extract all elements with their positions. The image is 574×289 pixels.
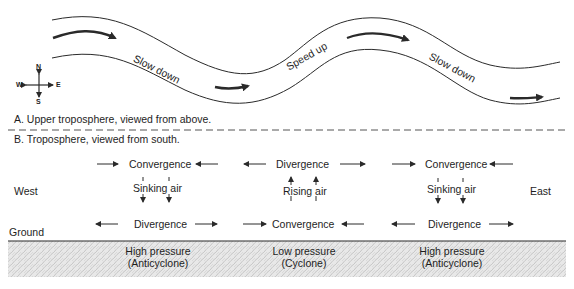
c3-pressure: High pressure (Anticyclone): [414, 245, 490, 269]
ground-label: Ground: [9, 226, 44, 238]
compass-west: W: [16, 81, 23, 88]
flow-arrow-2: [215, 86, 248, 89]
flow-arrow-3: [347, 33, 408, 40]
panel-b-caption: B. Troposphere, viewed from south.: [14, 133, 180, 145]
c3-top-label: Convergence: [425, 158, 487, 170]
c2-pressure: Low pressure (Cyclone): [266, 245, 342, 269]
wave-upper-boundary: [52, 17, 560, 74]
c2-pressure-line1: Low pressure: [266, 245, 342, 257]
c1-pressure: High pressure (Anticyclone): [120, 245, 196, 269]
flow-arrow-1: [53, 31, 115, 38]
c2-bottom-label: Convergence: [272, 218, 334, 230]
c2-pressure-line2: (Cyclone): [266, 257, 342, 269]
c1-bottom-label: Divergence: [134, 218, 187, 230]
compass-south: S: [36, 98, 41, 105]
c1-top-label: Convergence: [129, 158, 191, 170]
compass-icon: [26, 74, 53, 97]
c1-vertical-label: Sinking air: [133, 182, 182, 194]
c1-pressure-line2: (Anticyclone): [120, 257, 196, 269]
compass-east: E: [56, 81, 61, 88]
flow-arrow-4: [510, 97, 542, 98]
c3-vertical-label: Sinking air: [427, 183, 476, 195]
c1-pressure-line1: High pressure: [120, 245, 196, 257]
c2-vertical-label: Rising air: [283, 185, 327, 197]
c2-top-label: Divergence: [276, 158, 329, 170]
compass-north: N: [36, 63, 41, 70]
panel-a-caption: A. Upper troposphere, viewed from above.: [14, 113, 211, 125]
east-label: East: [530, 185, 551, 197]
west-label: West: [14, 185, 38, 197]
c3-bottom-label: Divergence: [428, 218, 481, 230]
c3-pressure-line1: High pressure: [414, 245, 490, 257]
c3-pressure-line2: (Anticyclone): [414, 257, 490, 269]
